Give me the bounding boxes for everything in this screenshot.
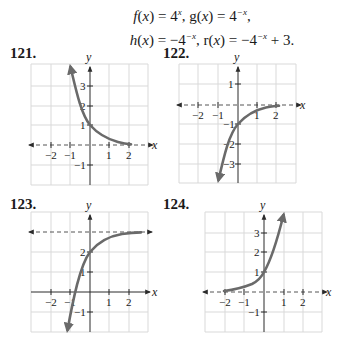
y-tick-label: 1 [228, 78, 234, 90]
x-tick-label: 2 [300, 296, 306, 308]
x-tick-label: 1 [281, 296, 287, 308]
x-axis-label: x [299, 98, 306, 112]
y-tick-label: −1 [74, 306, 86, 318]
y-tick-label: 1 [80, 119, 86, 131]
x-tick-label: 2 [273, 109, 279, 121]
x-tick-label: 1 [106, 296, 112, 308]
x-axis-label: x [325, 285, 332, 299]
y-tick-label: −3 [223, 158, 235, 170]
x-tick-label: −1 [212, 109, 224, 121]
x-tick-label: 1 [106, 149, 112, 161]
y-tick-label: −1 [223, 118, 235, 130]
x-tick-label: 2 [126, 149, 132, 161]
x-tick-label: −2 [192, 109, 204, 121]
graph-122: −2 −1 1 2 1 −1 −2 −3 y x [177, 50, 306, 183]
y-tick-label: 2 [80, 246, 86, 258]
x-axis-label: x [151, 138, 158, 152]
y-tick-label: 3 [254, 227, 260, 239]
y-axis-label: y [259, 198, 266, 212]
y-axis-label: y [85, 198, 92, 212]
graph-124: −2 −1 1 2 3 2 1 −1 y x [203, 198, 332, 332]
y-tick-label: 3 [80, 80, 86, 92]
y-tick-label: 2 [254, 246, 260, 258]
x-tick-label: −2 [219, 296, 231, 308]
x-tick-label: −2 [45, 296, 57, 308]
graph-123: −2 −1 1 2 2 1 −1 y x [29, 198, 158, 332]
y-axis-label: y [233, 50, 240, 64]
y-tick-label: 1 [254, 266, 260, 278]
y-axis-label: y [85, 50, 92, 64]
graph-121: −2 −1 1 2 3 2 1 −1 y x [29, 50, 158, 185]
y-tick-label: −1 [248, 306, 260, 318]
graphs-canvas: −2 −1 1 2 3 2 1 −1 y x −2 −1 1 2 1 −1 −2… [0, 0, 338, 340]
x-axis-label: x [151, 285, 158, 299]
x-tick-label: 2 [126, 296, 132, 308]
x-tick-label: −2 [45, 149, 57, 161]
y-tick-label: −1 [74, 159, 86, 171]
